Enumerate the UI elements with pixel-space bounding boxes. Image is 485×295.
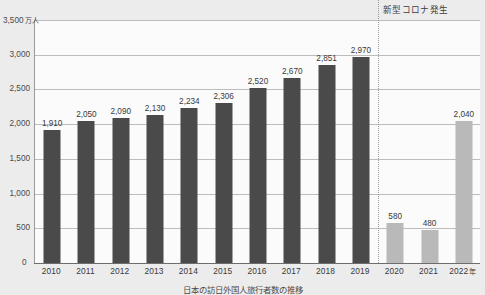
x-tick-value: 2015 (213, 266, 232, 276)
x-tick-value: 2019 (350, 266, 369, 276)
bar-2017[interactable] (284, 78, 301, 263)
bar-2013[interactable] (147, 115, 164, 263)
x-tick-label-2013: 2013 (145, 266, 164, 276)
y-tick-value: 500 (16, 223, 30, 232)
bar-2015[interactable] (215, 103, 232, 263)
x-tick-value: 2013 (145, 266, 164, 276)
y-tick-label-2500: 2,500 (0, 84, 30, 93)
bar-2010[interactable] (44, 130, 61, 263)
y-tick-label-3000: 3,000 (0, 50, 30, 59)
bar-value-label-2021: 480 (423, 219, 437, 228)
x-tick-label-2015: 2015 (213, 266, 232, 276)
bar-value-label-2014: 2,234 (179, 97, 200, 106)
plot-area: 1,9102,0502,0902,1302,2342,3062,5202,670… (34, 20, 480, 263)
covid-annotation-label: 新型コロナ発生 (383, 3, 448, 15)
y-tick-value: 2,500 (10, 84, 31, 93)
x-tick-label-2010: 2010 (42, 266, 61, 276)
bar-slot: 2,520 (241, 20, 275, 263)
x-tick-label-2018: 2018 (316, 266, 335, 276)
x-tick-value: 2018 (316, 266, 335, 276)
y-tick-value: 3,500 (3, 16, 24, 25)
bar-value-label-2010: 1,910 (42, 119, 63, 128)
x-tick-value: 2020 (385, 266, 404, 276)
x-axis-line (34, 263, 480, 264)
bar-value-label-2015: 2,306 (213, 92, 234, 101)
x-tick-value: 2022 (449, 266, 468, 276)
x-tick-value: 2017 (282, 266, 301, 276)
x-tick-label-2012: 2012 (110, 266, 129, 276)
bar-value-label-2020: 580 (388, 212, 402, 221)
x-tick-label-2020: 2020 (385, 266, 404, 276)
bar-slot: 2,670 (275, 20, 309, 263)
bar-slot: 2,234 (172, 20, 206, 263)
bars-group: 1,9102,0502,0902,1302,2342,3062,5202,670… (35, 20, 480, 263)
x-tick-label-2017: 2017 (282, 266, 301, 276)
x-tick-label-2019: 2019 (350, 266, 369, 276)
x-tick-label-2016: 2016 (247, 266, 266, 276)
x-axis-unit-label: 年 (469, 267, 476, 276)
bar-2018[interactable] (318, 65, 335, 263)
bar-slot: 2,306 (207, 20, 241, 263)
bar-2011[interactable] (78, 121, 95, 263)
y-tick-label-3500: 3,500万人 (3, 15, 39, 25)
bar-2016[interactable] (249, 88, 266, 263)
bar-value-label-2013: 2,130 (145, 104, 166, 113)
bar-slot: 2,050 (69, 20, 103, 263)
bar-value-label-2022: 2,040 (454, 110, 475, 119)
y-tick-label-2000: 2,000 (0, 119, 30, 128)
bar-value-label-2012: 2,090 (111, 107, 132, 116)
y-tick-value: 1,500 (10, 154, 31, 163)
bar-slot: 1,910 (35, 20, 69, 263)
bar-value-label-2017: 2,670 (282, 67, 303, 76)
covid-divider-line (378, 0, 379, 263)
x-tick-label-2022: 2022年 (449, 266, 476, 276)
x-tick-value: 2010 (42, 266, 61, 276)
x-tick-value: 2011 (76, 266, 94, 276)
bar-2020[interactable] (387, 223, 404, 263)
bar-slot: 2,130 (138, 20, 172, 263)
y-tick-value: 2,000 (10, 119, 31, 128)
y-axis-unit-label: 万人 (25, 17, 39, 24)
x-tick-label-2014: 2014 (179, 266, 198, 276)
y-tick-value: 3,000 (10, 50, 31, 59)
x-tick-label-2021: 2021 (419, 266, 438, 276)
y-tick-label-1500: 1,500 (0, 154, 30, 163)
y-axis-zero-label: 0 (22, 258, 27, 267)
x-tick-label-2011: 2011 (76, 266, 94, 276)
bar-2019[interactable] (352, 57, 369, 263)
y-tick-label-500: 500 (0, 223, 30, 232)
x-tick-value: 2021 (419, 266, 438, 276)
bar-value-label-2016: 2,520 (248, 77, 269, 86)
bar-value-label-2018: 2,851 (316, 54, 337, 63)
bar-slot: 2,851 (309, 20, 343, 263)
x-tick-value: 2014 (179, 266, 198, 276)
bar-2012[interactable] (112, 118, 129, 263)
y-tick-label-1000: 1,000 (0, 189, 30, 198)
chart-caption: 日本の訪日外国人旅行者数の推移 (0, 283, 485, 295)
bar-slot: 2,970 (344, 20, 378, 263)
x-tick-value: 2012 (110, 266, 129, 276)
bar-2014[interactable] (181, 108, 198, 263)
bar-2022[interactable] (455, 121, 472, 263)
bar-value-label-2019: 2,970 (351, 46, 372, 55)
bar-2021[interactable] (421, 230, 438, 263)
bar-slot: 580 (378, 20, 412, 263)
bar-value-label-2011: 2,050 (76, 110, 97, 119)
bar-slot: 2,040 (447, 20, 481, 263)
x-tick-value: 2016 (247, 266, 266, 276)
bar-slot: 2,090 (104, 20, 138, 263)
bar-slot: 480 (412, 20, 446, 263)
y-tick-value: 1,000 (10, 189, 31, 198)
